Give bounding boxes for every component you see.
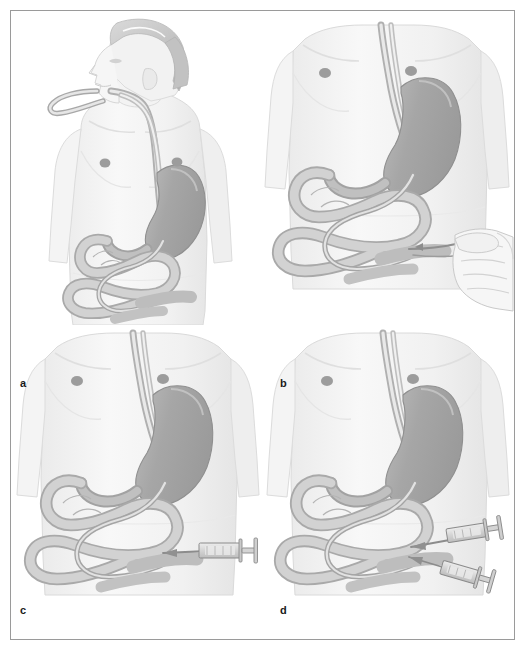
right-nipple xyxy=(405,66,417,76)
head-profile xyxy=(89,19,189,103)
panel-label-b: b xyxy=(280,378,287,389)
panel-c-illustration xyxy=(11,325,263,629)
panel-b-illustration xyxy=(263,11,514,325)
panel-d-illustration xyxy=(263,325,514,629)
right-nipple xyxy=(407,374,419,384)
panel-label-a: a xyxy=(20,378,26,389)
panel-a: Endoscope passed orally through esophagu… xyxy=(11,11,263,325)
panel-label-d: d xyxy=(280,605,287,616)
figure-root: Endoscope passed orally through esophagu… xyxy=(0,0,528,651)
left-nipple xyxy=(321,376,333,386)
left-nipple xyxy=(100,158,111,167)
panel-c: Single needle and syringe puncture throu… xyxy=(11,325,263,629)
right-nipple xyxy=(172,157,183,166)
right-nipple xyxy=(157,374,169,384)
panel-label-c: c xyxy=(20,605,26,616)
panel-b: Clinician's hand grasps the guidewire / … xyxy=(263,11,514,325)
left-nipple xyxy=(319,68,331,78)
left-nipple xyxy=(71,376,83,386)
panel-d: Two needles and syringes placed at conve… xyxy=(263,325,514,629)
panel-a-illustration xyxy=(11,11,263,325)
clinician-hand xyxy=(453,229,513,311)
